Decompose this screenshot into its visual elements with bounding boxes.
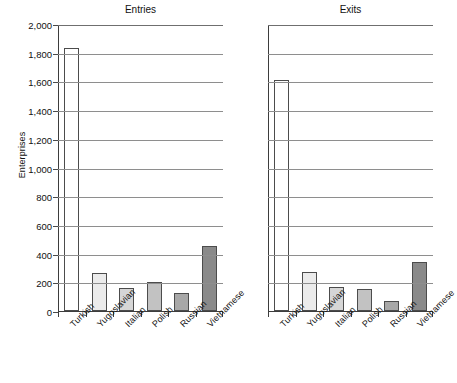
y-tick-label: 1,600 [28, 78, 52, 87]
y-tick-mark [53, 82, 58, 83]
y-tick-label: 0 [47, 308, 52, 317]
gridline [268, 226, 433, 227]
gridline [58, 283, 223, 284]
y-tick-label: 400 [36, 250, 52, 259]
bar [64, 48, 79, 311]
y-tick-mark [53, 255, 58, 256]
gridline [58, 140, 223, 141]
y-tick-label: 1,000 [28, 164, 52, 173]
y-tick-label: 200 [36, 279, 52, 288]
bar [274, 80, 289, 311]
bar [147, 282, 162, 311]
panel-entries: Entries TurkishYugoslavianItalianPolishR… [58, 25, 223, 312]
gridline [268, 197, 433, 198]
gridline [268, 54, 433, 55]
gridline [58, 54, 223, 55]
y-tick-label: 600 [36, 221, 52, 230]
gridline [268, 140, 433, 141]
y-tick-mark [53, 312, 58, 313]
y-tick-mark [53, 111, 58, 112]
y-axis-tick-labels: 02004006008001,0001,2001,4001,6001,8002,… [6, 0, 52, 383]
y-tick-mark [53, 140, 58, 141]
y-tick-mark [53, 25, 58, 26]
gridline [58, 226, 223, 227]
bars-exits [268, 24, 433, 311]
panel-exits: Exits TurkishYugoslavianItalianPolishRus… [268, 25, 433, 312]
gridline [58, 111, 223, 112]
y-tick-mark [53, 283, 58, 284]
bar [174, 293, 189, 311]
panel-title-entries: Entries [58, 4, 223, 15]
plot-area-entries [58, 25, 223, 312]
panel-title-exits: Exits [268, 4, 433, 15]
y-tick-label: 800 [36, 193, 52, 202]
bars-entries [58, 24, 223, 311]
x-axis-tick-labels-entries: TurkishYugoslavianItalianPolishRussianVi… [58, 314, 223, 383]
gridline [58, 255, 223, 256]
y-tick-label: 1,800 [28, 49, 52, 58]
y-tick-mark [53, 226, 58, 227]
y-tick-mark [53, 197, 58, 198]
y-tick-label: 2,000 [28, 21, 52, 30]
y-tick-mark [53, 169, 58, 170]
bar [357, 289, 372, 311]
plot-area-exits [268, 25, 433, 312]
gridline [268, 25, 433, 26]
gridline [58, 197, 223, 198]
bar [384, 301, 399, 311]
y-tick-label: 1,400 [28, 107, 52, 116]
gridline [268, 111, 433, 112]
gridline [58, 82, 223, 83]
y-tick-label: 1,200 [28, 135, 52, 144]
gridline [268, 82, 433, 83]
gridline [268, 169, 433, 170]
y-tick-mark [53, 54, 58, 55]
x-axis-tick-labels-exits: TurkishYugoslavianItalianPolishRussianVi… [268, 314, 433, 383]
gridline [268, 255, 433, 256]
gridline [58, 25, 223, 26]
gridline [268, 283, 433, 284]
gridline [58, 169, 223, 170]
